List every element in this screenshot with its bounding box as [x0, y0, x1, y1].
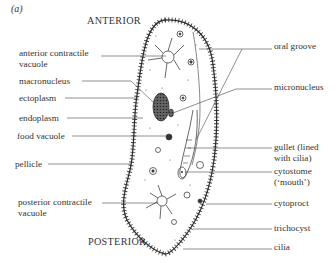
posterior-contractile-vacuole: [146, 185, 176, 219]
micronucleus: [169, 109, 174, 117]
anterior-contractile-vacuole: [148, 38, 184, 78]
macronucleus: [153, 93, 169, 121]
paramecium-diagram: [0, 0, 336, 263]
